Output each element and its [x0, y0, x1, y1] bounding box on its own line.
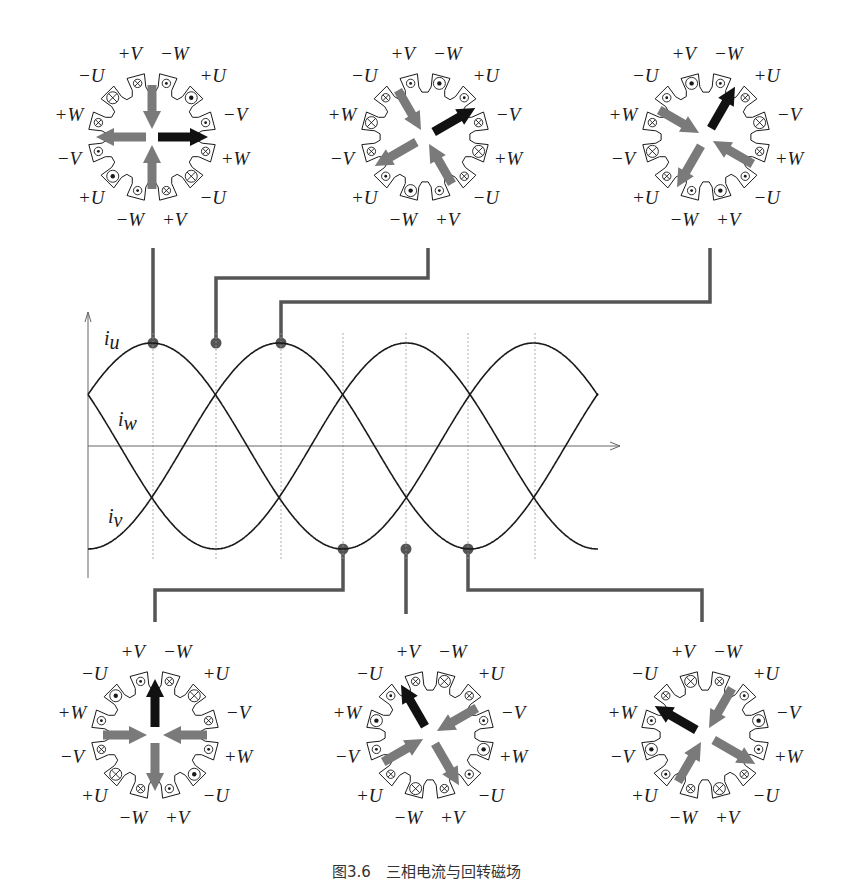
- current-in-icon: [755, 147, 763, 155]
- phase-field-arrow-icon: [146, 743, 164, 791]
- slot-label: −W: [668, 807, 699, 828]
- current-out-icon: [136, 677, 144, 685]
- slot-label: −V: [777, 104, 804, 125]
- current-out-icon: [663, 94, 671, 102]
- slot-label: +V: [440, 807, 467, 828]
- phase-field-arrow-icon: [375, 138, 419, 166]
- phase-field-arrow-icon: [437, 704, 479, 731]
- slot-label: −U: [754, 187, 782, 208]
- current-out-icon: [686, 77, 698, 89]
- current-out-icon: [716, 79, 724, 87]
- phase-field-arrow-icon: [96, 128, 146, 146]
- slot-label: +U: [78, 187, 106, 208]
- resultant-field-arrow-icon: [655, 706, 699, 734]
- phase-field-arrow-icon: [429, 144, 456, 186]
- slot-label: −V: [776, 702, 803, 723]
- current-out-icon: [740, 692, 748, 700]
- current-in-icon: [648, 118, 656, 126]
- slot-label: −U: [81, 663, 109, 684]
- current-out-icon: [460, 94, 468, 102]
- slot-label: +V: [715, 807, 742, 828]
- slot-label: +U: [203, 663, 231, 684]
- current-out-icon: [188, 768, 200, 780]
- slot-label: +U: [632, 187, 660, 208]
- slot-label: +U: [631, 785, 659, 806]
- current-out-icon: [185, 92, 197, 104]
- slot-label: −W: [160, 43, 191, 64]
- current-in-icon: [97, 745, 105, 753]
- slot-label: −W: [669, 209, 700, 230]
- phase-field-arrow-icon: [674, 742, 701, 784]
- slot-label: −V: [611, 148, 638, 169]
- current-in-icon: [365, 117, 377, 129]
- current-out-icon: [370, 715, 382, 727]
- resultant-field-arrow-icon: [401, 685, 429, 729]
- stator-motor-5: +V−W+U−V+W−U+V−W+U−V+W−U: [333, 641, 530, 828]
- slot-label: −V: [501, 702, 528, 723]
- slot-label: −V: [60, 746, 87, 767]
- slot-label: −V: [610, 746, 637, 767]
- slot-label: +W: [221, 148, 252, 169]
- current-in-icon: [107, 92, 119, 104]
- current-in-icon: [382, 94, 390, 102]
- current-out-icon: [465, 770, 473, 778]
- slot-label: −W: [388, 209, 419, 230]
- stator-motor-6: +V−W+U−V+W−U+V−W+U−V+W−U: [608, 641, 805, 828]
- current-out-icon: [645, 743, 657, 755]
- slot-label: −V: [496, 104, 523, 125]
- current-in-icon: [185, 170, 197, 182]
- slot-label: −U: [631, 663, 659, 684]
- current-out-icon: [110, 690, 122, 702]
- slot-label: −W: [433, 43, 464, 64]
- current-in-icon: [165, 677, 173, 685]
- current-in-icon: [474, 118, 482, 126]
- current-in-icon: [460, 172, 468, 180]
- slot-label: −W: [118, 807, 149, 828]
- current-in-icon: [473, 145, 485, 157]
- current-out-icon: [133, 186, 141, 194]
- current-out-icon: [753, 715, 765, 727]
- stator-outline: [642, 672, 768, 798]
- current-in-icon: [411, 677, 419, 685]
- slot-label: −U: [753, 785, 781, 806]
- current-out-icon: [479, 716, 487, 724]
- connector-line: [281, 248, 710, 343]
- current-in-icon: [754, 117, 766, 129]
- current-out-icon: [662, 770, 670, 778]
- phase-field-arrow-icon: [713, 141, 755, 168]
- slot-label: +U: [356, 785, 384, 806]
- current-in-icon: [162, 186, 170, 194]
- current-out-icon: [754, 745, 762, 753]
- current-out-icon: [435, 186, 443, 194]
- slot-label: −W: [163, 641, 194, 662]
- slot-label: −U: [351, 65, 379, 86]
- resultant-field-arrow-icon: [431, 108, 475, 136]
- stator-motor-2: +V−W+U−V+W−U+V−W+U−V+W−U: [328, 43, 525, 230]
- current-in-icon: [387, 770, 395, 778]
- slot-label: −U: [632, 65, 660, 86]
- slot-label: +W: [608, 702, 639, 723]
- slot-label: +V: [672, 43, 699, 64]
- current-out-icon: [204, 745, 212, 753]
- phase-field-arrow-icon: [431, 741, 459, 785]
- stator-motor-1: +V−W+U−V+W−U+V−W+U−V+W−U: [55, 43, 252, 230]
- current-in-icon: [686, 784, 694, 792]
- stator-outline: [643, 74, 769, 200]
- figure-caption: 图3.6 三相电流与回转磁场: [0, 860, 853, 881]
- phase-field-arrow-icon: [711, 736, 755, 764]
- phase-field-arrow-icon: [677, 143, 705, 187]
- curve-label-iw: iw: [118, 408, 138, 434]
- stator-motor-3: +V−W+U−V+W−U+V−W+U−V+W−U: [609, 43, 806, 230]
- phase-field-arrow-icon: [381, 739, 423, 766]
- slot-label: +W: [55, 104, 86, 125]
- slot-label: −U: [78, 65, 106, 86]
- current-out-icon: [406, 79, 414, 87]
- current-out-icon: [162, 79, 170, 87]
- connector-lines: [148, 248, 711, 622]
- current-out-icon: [647, 716, 655, 724]
- current-in-icon: [133, 79, 141, 87]
- slot-label: +U: [753, 663, 781, 684]
- current-in-icon: [136, 784, 144, 792]
- slot-label: +V: [162, 209, 189, 230]
